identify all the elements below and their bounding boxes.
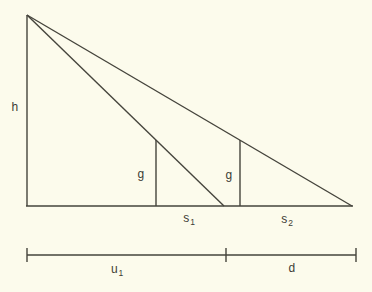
geometry-figure: h g g s1 s2 u1 d <box>0 0 372 292</box>
label-u1: u1 <box>111 263 123 275</box>
label-h: h <box>12 101 19 113</box>
label-g-second: g <box>226 169 233 181</box>
hypotenuse-inner <box>27 15 224 206</box>
hypotenuse-outer <box>27 15 352 206</box>
label-s1: s1 <box>183 212 194 224</box>
label-d: d <box>289 262 296 274</box>
diagram-svg <box>0 0 372 292</box>
label-g-first: g <box>138 168 145 180</box>
label-s2: s2 <box>281 213 292 225</box>
